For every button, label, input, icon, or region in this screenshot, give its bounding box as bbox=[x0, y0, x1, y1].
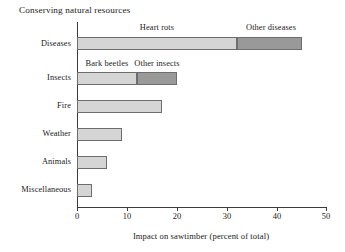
category-label-fire: Fire bbox=[57, 101, 71, 110]
bar-segment-animals bbox=[77, 156, 107, 169]
x-tick-label-50: 50 bbox=[322, 212, 330, 221]
bar-segment-other-insects bbox=[137, 72, 177, 85]
category-label-insects: Insects bbox=[47, 73, 71, 82]
bar-segment-other-diseases bbox=[237, 37, 302, 50]
bar-chart: Conserving natural resources 0 10 20 30 … bbox=[0, 0, 345, 252]
bar-animals bbox=[77, 156, 107, 169]
x-tick-label-30: 30 bbox=[223, 212, 231, 221]
annotation-other-insects: Other insects bbox=[134, 59, 179, 68]
category-label-diseases: Diseases bbox=[41, 39, 71, 48]
bar-segment-bark-beetles bbox=[77, 72, 137, 85]
bar-segment-miscellaneous bbox=[77, 184, 92, 197]
x-tick-label-40: 40 bbox=[273, 212, 281, 221]
x-tick-10 bbox=[127, 207, 128, 211]
bar-weather bbox=[77, 128, 122, 141]
x-tick-30 bbox=[227, 207, 228, 211]
annotation-other-diseases: Other diseases bbox=[246, 23, 296, 32]
x-tick-40 bbox=[277, 207, 278, 211]
bar-diseases bbox=[77, 37, 302, 50]
x-axis-line bbox=[77, 207, 326, 208]
bar-segment-weather bbox=[77, 128, 122, 141]
x-tick-50 bbox=[326, 207, 327, 211]
chart-title: Conserving natural resources bbox=[19, 5, 130, 15]
bar-segment-heart-rots bbox=[77, 37, 237, 50]
x-tick-label-20: 20 bbox=[173, 212, 181, 221]
bar-segment-fire bbox=[77, 100, 162, 113]
x-tick-0 bbox=[77, 207, 78, 211]
x-tick-label-10: 10 bbox=[123, 212, 131, 221]
category-label-animals: Animals bbox=[42, 157, 71, 166]
annotation-heart-rots: Heart rots bbox=[140, 23, 174, 32]
category-label-weather: Weather bbox=[43, 129, 71, 138]
x-tick-label-0: 0 bbox=[75, 212, 79, 221]
x-axis-title: Impact on sawtimber (percent of total) bbox=[133, 231, 269, 241]
annotation-bark-beetles: Bark beetles bbox=[86, 59, 129, 68]
x-tick-20 bbox=[177, 207, 178, 211]
bar-miscellaneous bbox=[77, 184, 92, 197]
bar-insects bbox=[77, 72, 177, 85]
bar-fire bbox=[77, 100, 162, 113]
category-label-miscellaneous: Miscellaneous bbox=[21, 185, 71, 194]
